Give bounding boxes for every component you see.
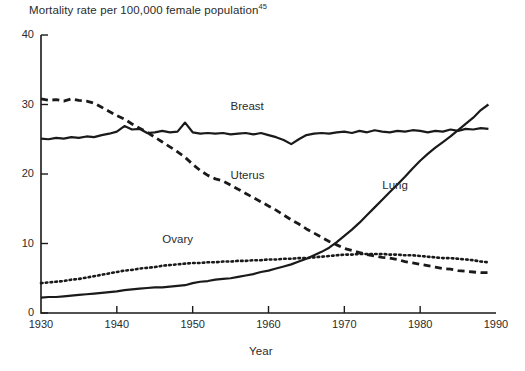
series-label-lung: Lung [382,179,408,191]
series-line-ovary [41,254,488,283]
x-axis-title: Year [249,345,273,357]
x-tick-label: 1950 [173,318,213,330]
x-tick-label: 1930 [21,318,61,330]
series-label-uterus: Uterus [231,169,265,181]
series-label-breast: Breast [231,100,264,112]
series-line-breast [41,123,488,145]
x-tick-label: 1960 [249,318,289,330]
x-tick-label: 1970 [324,318,364,330]
y-tick-label: 0 [8,306,34,318]
plot-area [0,0,525,371]
x-tick-label: 1980 [400,318,440,330]
y-tick-label: 40 [8,28,34,40]
series-label-ovary: Ovary [162,233,193,245]
y-tick-label: 30 [8,98,34,110]
series-lines [41,99,488,298]
series-line-uterus [41,99,488,273]
x-tick-label: 1940 [97,318,137,330]
chart-figure: Mortality rate per 100,000 female popula… [0,0,525,371]
x-tick-label: 1990 [476,318,516,330]
y-tick-label: 20 [8,167,34,179]
y-tick-label: 10 [8,237,34,249]
